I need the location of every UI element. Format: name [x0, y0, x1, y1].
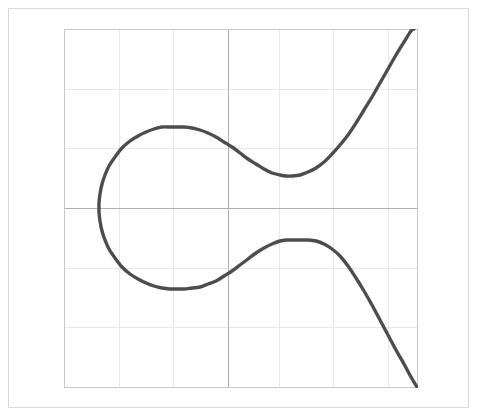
axis-layer [64, 29, 417, 387]
screenshot-root [0, 0, 478, 417]
plot-figure [0, 0, 478, 417]
plot-svg [0, 0, 478, 417]
